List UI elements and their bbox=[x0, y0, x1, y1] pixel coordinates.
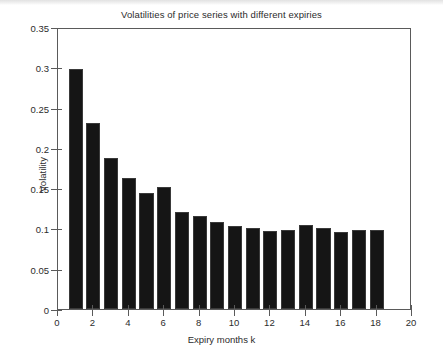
bar bbox=[228, 226, 242, 309]
x-tick-mark bbox=[163, 310, 164, 316]
y-tick-mark-inner bbox=[57, 229, 62, 230]
x-tick-mark-inner bbox=[234, 305, 235, 310]
x-tick-label: 16 bbox=[335, 317, 346, 328]
x-tick-mark bbox=[57, 310, 58, 316]
scan-edge-band bbox=[0, 0, 443, 5]
bar bbox=[352, 230, 366, 309]
y-tick-label: 0.1 bbox=[36, 224, 49, 235]
x-tick-label: 0 bbox=[54, 317, 59, 328]
bar bbox=[122, 178, 136, 309]
bar bbox=[210, 222, 224, 309]
x-tick-mark-inner bbox=[305, 305, 306, 310]
bar bbox=[175, 212, 189, 309]
plot-area bbox=[57, 28, 411, 310]
y-tick-label: 0.25 bbox=[31, 103, 50, 114]
bar bbox=[246, 228, 260, 309]
y-tick-label: 0 bbox=[44, 305, 49, 316]
x-tick-label: 6 bbox=[161, 317, 166, 328]
y-axis-label: Volatility bbox=[37, 125, 48, 225]
x-tick-mark bbox=[269, 310, 270, 316]
x-tick-label: 4 bbox=[125, 317, 130, 328]
x-tick-label: 18 bbox=[370, 317, 381, 328]
bar bbox=[263, 231, 277, 309]
y-tick-mark-inner bbox=[57, 109, 62, 110]
bar bbox=[69, 69, 83, 309]
x-tick-mark-inner bbox=[269, 305, 270, 310]
x-tick-label: 2 bbox=[90, 317, 95, 328]
bar bbox=[370, 230, 384, 309]
x-tick-mark bbox=[234, 310, 235, 316]
x-tick-mark-inner bbox=[92, 305, 93, 310]
x-tick-mark-inner bbox=[128, 305, 129, 310]
x-tick-mark bbox=[340, 310, 341, 316]
x-tick-mark-inner bbox=[340, 305, 341, 310]
x-tick-mark-inner bbox=[411, 305, 412, 310]
bar bbox=[86, 123, 100, 309]
bar bbox=[299, 225, 313, 309]
x-axis-label: Expiry months k bbox=[0, 334, 443, 345]
bar bbox=[193, 216, 207, 309]
bar bbox=[157, 187, 171, 309]
x-tick-label: 12 bbox=[264, 317, 275, 328]
y-tick-mark-inner bbox=[57, 189, 62, 190]
chart-figure: Volatilities of price series with differ… bbox=[0, 0, 443, 357]
x-tick-mark bbox=[411, 310, 412, 316]
chart-title: Volatilities of price series with differ… bbox=[0, 9, 443, 20]
x-tick-mark-inner bbox=[199, 305, 200, 310]
y-tick-label: 0.05 bbox=[31, 264, 50, 275]
y-tick-mark-inner bbox=[57, 149, 62, 150]
bar bbox=[316, 228, 330, 309]
x-tick-mark-inner bbox=[57, 305, 58, 310]
x-tick-mark bbox=[92, 310, 93, 316]
x-tick-mark-inner bbox=[163, 305, 164, 310]
x-tick-mark bbox=[128, 310, 129, 316]
x-tick-label: 8 bbox=[196, 317, 201, 328]
y-tick-mark-inner bbox=[57, 270, 62, 271]
bar bbox=[104, 158, 118, 309]
bar bbox=[139, 193, 153, 309]
x-tick-mark bbox=[199, 310, 200, 316]
y-tick-label: 0.3 bbox=[36, 63, 49, 74]
bar bbox=[281, 230, 295, 309]
y-tick-label: 0.35 bbox=[31, 23, 50, 34]
y-tick-mark-inner bbox=[57, 68, 62, 69]
x-tick-mark bbox=[376, 310, 377, 316]
y-tick-mark-inner bbox=[57, 28, 62, 29]
x-tick-label: 10 bbox=[229, 317, 240, 328]
bar-series bbox=[58, 29, 410, 309]
x-tick-label: 20 bbox=[406, 317, 417, 328]
bar bbox=[334, 232, 348, 309]
x-tick-label: 14 bbox=[300, 317, 311, 328]
x-tick-mark-inner bbox=[376, 305, 377, 310]
x-tick-mark bbox=[305, 310, 306, 316]
